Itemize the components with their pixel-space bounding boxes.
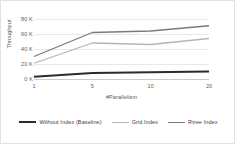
x-axis-line bbox=[34, 79, 209, 80]
y-tick-label: 80 K bbox=[7, 16, 33, 22]
x-axis-title: #Parallelism bbox=[34, 94, 209, 100]
legend-label: Rtree Index bbox=[188, 119, 218, 125]
y-tick-label: 20 K bbox=[7, 61, 33, 67]
y-tick-label: 0 K bbox=[7, 76, 33, 82]
series-line bbox=[34, 72, 209, 77]
legend-line-icon bbox=[112, 122, 129, 123]
legend-label: Without Index (Baseline) bbox=[39, 119, 101, 125]
plot-area bbox=[34, 19, 209, 79]
legend-label: Grid Index bbox=[132, 119, 158, 125]
legend-item[interactable]: Rtree Index bbox=[168, 119, 218, 125]
legend-item[interactable]: Grid Index bbox=[112, 119, 158, 125]
plot-lines bbox=[34, 19, 209, 79]
legend-line-icon bbox=[19, 121, 36, 123]
series-line bbox=[34, 39, 209, 64]
x-tick-label: 5 bbox=[80, 83, 104, 89]
y-axis-tick-labels: 0 K20 K40 K60 K80 K bbox=[7, 13, 33, 85]
y-tick-label: 40 K bbox=[7, 46, 33, 52]
x-tick-label: 20 bbox=[197, 83, 221, 89]
throughput-line-chart: Throughput 0 K20 K40 K60 K80 K 151020 #P… bbox=[0, 0, 235, 144]
y-tick-label: 60 K bbox=[7, 31, 33, 37]
legend-line-icon bbox=[168, 122, 185, 123]
x-tick-label: 1 bbox=[22, 83, 46, 89]
x-axis-tick-labels: 151020 bbox=[34, 83, 209, 93]
x-tick-label: 10 bbox=[139, 83, 163, 89]
legend-item[interactable]: Without Index (Baseline) bbox=[19, 119, 101, 125]
chart-legend: Without Index (Baseline)Grid IndexRtree … bbox=[11, 115, 226, 129]
